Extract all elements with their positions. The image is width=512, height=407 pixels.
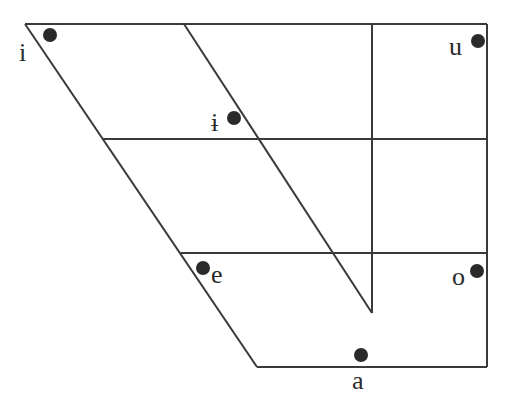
vowel-dot-i-bar <box>227 111 241 125</box>
vowel-label-u: u <box>449 32 462 61</box>
vowel-label-o: o <box>452 262 465 291</box>
front-edge <box>25 24 257 367</box>
trapezoid-frame <box>25 24 487 367</box>
vowel-label-i: i <box>19 38 26 67</box>
vowel-label-a: a <box>352 366 364 395</box>
vowel-label-e: e <box>211 260 223 289</box>
vowel-label-i-bar: ɨ <box>211 108 218 137</box>
vowel-dot-i <box>43 28 57 42</box>
grid-lines <box>103 24 487 313</box>
vowel-dot-u <box>471 34 485 48</box>
vowel-dot-e <box>196 261 210 275</box>
vowel-dot-o <box>470 264 484 278</box>
vowel-chart: i ɨ u e o a <box>0 0 512 407</box>
vowel-dot-a <box>354 348 368 362</box>
